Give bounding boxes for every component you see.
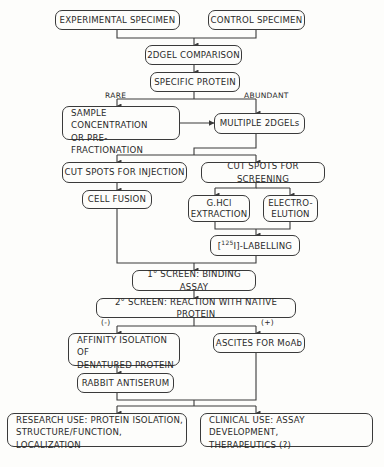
node-cell-fusion: CELL FUSION xyxy=(82,190,152,209)
node-label: EXPERIMENTAL SPECIMEN xyxy=(60,14,176,26)
node-sample-concentration: SAMPLE CONCENTRATION OR PRE-FRACTIONATIO… xyxy=(62,106,180,140)
node-iodine-labelling: [125I]-LABELLING xyxy=(210,235,300,256)
node-specific-protein: SPECIFIC PROTEIN xyxy=(150,72,240,92)
node-2dgel-comparison: 2DGEL COMPARISON xyxy=(145,45,242,65)
node-label: 2° SCREEN: REACTION WITH NATIVE PROTEIN xyxy=(97,296,295,321)
node-label-line2: DENATURED PROTEIN xyxy=(77,359,174,371)
node-label-line2: STRUCTURE/FUNCTION, LOCALIZATION xyxy=(16,426,186,451)
node-label: CONTROL SPECIMEN xyxy=(211,14,303,26)
edge-label-negative: (-) xyxy=(101,318,110,327)
node-ascites-moab: ASCITES FOR MoAb xyxy=(213,333,305,353)
edge-label-abundant: ABUNDANT xyxy=(244,91,289,100)
node-secondary-screen: 2° SCREEN: REACTION WITH NATIVE PROTEIN xyxy=(96,298,296,318)
node-label: RABBIT ANTISERUM xyxy=(82,377,170,389)
node-affinity-isolation: AFFINITY ISOLATION OF DENATURED PROTEIN xyxy=(68,333,180,366)
node-label: 1° SCREEN: BINDING ASSAY xyxy=(133,268,255,293)
node-label-line1: CLINICAL USE: ASSAY DEVELOPMENT, xyxy=(209,414,372,439)
node-multiple-2dgels: MULTIPLE 2DGELs xyxy=(214,113,305,134)
node-electro-elution: ELECTRO- ELUTION xyxy=(263,195,318,222)
node-rabbit-antiserum: RABBIT ANTISERUM xyxy=(77,373,174,393)
node-label: CUT SPOTS FOR INJECTION xyxy=(64,166,184,178)
node-label-line1: RESEARCH USE: PROTEIN ISOLATION, xyxy=(16,414,183,426)
node-control-specimen: CONTROL SPECIMEN xyxy=(208,10,305,30)
node-label-line2: THERAPEUTICS (?) xyxy=(209,439,291,451)
node-label-line1: AFFINITY ISOLATION OF xyxy=(77,334,179,359)
edge-label-rare: RARE xyxy=(105,91,126,100)
node-label-line2: ELUTION xyxy=(271,209,309,219)
node-label: CELL FUSION xyxy=(88,193,146,205)
node-cut-spots-screening: CUT SPOTS FOR SCREENING xyxy=(201,162,325,183)
edge-label-positive: (+) xyxy=(261,318,274,327)
node-label-line1: G.HCl xyxy=(206,198,231,208)
node-label-line1: ELECTRO- xyxy=(268,198,313,208)
node-label-line2: EXTRACTION xyxy=(191,209,248,219)
node-label: MULTIPLE 2DGELs xyxy=(220,117,300,129)
node-clinical-use: CLINICAL USE: ASSAY DEVELOPMENT, THERAPE… xyxy=(200,413,373,447)
node-label: CUT SPOTS FOR SCREENING xyxy=(202,160,324,185)
node-label: 2DGEL COMPARISON xyxy=(147,49,240,61)
node-experimental-specimen: EXPERIMENTAL SPECIMEN xyxy=(55,10,180,30)
node-research-use: RESEARCH USE: PROTEIN ISOLATION, STRUCTU… xyxy=(7,413,187,447)
connector-lines xyxy=(0,0,384,467)
node-label-line2: OR PRE-FRACTIONATION xyxy=(71,132,179,157)
node-ghcl-extraction: G.HCl EXTRACTION xyxy=(188,195,250,222)
node-label: ASCITES FOR MoAb xyxy=(216,337,302,349)
node-label-line1: SAMPLE CONCENTRATION xyxy=(71,107,179,132)
node-label: SPECIFIC PROTEIN xyxy=(154,76,236,88)
node-primary-screen: 1° SCREEN: BINDING ASSAY xyxy=(132,270,256,291)
node-cut-spots-injection: CUT SPOTS FOR INJECTION xyxy=(62,162,187,183)
node-label: [125I]-LABELLING xyxy=(218,239,292,252)
